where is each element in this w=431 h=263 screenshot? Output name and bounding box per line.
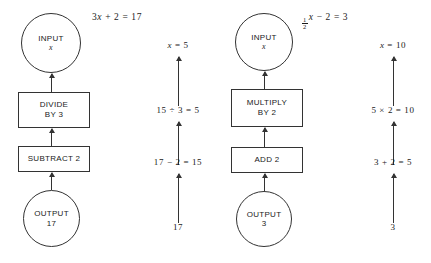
node-step-right-1[interactable]: MULTIPLY BY 2	[231, 89, 303, 127]
working-right-start: 3	[390, 222, 395, 232]
panel-right: 12x − 2 = 3 INPUT x MULTIPLY BY 2 ADD 2	[215, 0, 431, 263]
arrow-up-left-2	[51, 129, 52, 146]
arrow-up-left-1	[51, 74, 52, 92]
working-arrow-left-3	[178, 174, 179, 223]
node-step-left-1[interactable]: DIVIDE BY 3	[18, 92, 90, 128]
node-step-right-1-line1: MULTIPLY	[247, 98, 287, 108]
node-input-right-value: x	[262, 42, 266, 51]
node-step-right-2-line1: ADD 2	[254, 155, 279, 165]
arrow-up-right-2	[264, 128, 265, 147]
arrow-up-left-3	[51, 173, 52, 190]
working-right-result-rest: = 10	[385, 40, 407, 50]
node-output-right-value: 3	[262, 219, 267, 228]
working-arrow-left-1	[178, 57, 179, 106]
panel-left: 3x + 2 = 17 INPUT x DIVIDE BY 3 SUBTRACT…	[0, 0, 216, 263]
node-output-left-value: 17	[47, 219, 57, 228]
flowchart-right: INPUT x MULTIPLY BY 2 ADD 2 OUTPUT 3	[215, 0, 325, 263]
working-arrow-right-3	[393, 174, 394, 223]
node-step-left-1-line1: DIVIDE	[40, 100, 68, 110]
node-output-right[interactable]: OUTPUT 3	[236, 191, 292, 247]
node-step-left-2[interactable]: SUBTRACT 2	[18, 146, 90, 172]
arrow-up-right-1	[264, 72, 265, 89]
working-left-start: 17	[173, 222, 183, 232]
node-step-right-1-line2: BY 2	[258, 108, 276, 118]
working-right-result: x = 10	[380, 40, 406, 50]
working-right-step-1: 3 + 2 = 5	[374, 157, 412, 167]
node-step-left-2-line1: SUBTRACT 2	[28, 154, 81, 164]
node-input-right[interactable]: INPUT x	[235, 13, 293, 71]
diagram-canvas: 3x + 2 = 17 INPUT x DIVIDE BY 3 SUBTRACT…	[0, 0, 431, 263]
node-input-left-label: INPUT	[38, 34, 64, 43]
node-input-left-value: x	[49, 43, 53, 52]
working-left-result: x = 5	[167, 40, 188, 50]
flowchart-left: INPUT x DIVIDE BY 3 SUBTRACT 2 OUTPUT 17	[0, 0, 110, 263]
node-output-left[interactable]: OUTPUT 17	[23, 190, 80, 247]
working-left-result-rest: = 5	[172, 40, 188, 50]
working-right-step-2: 5 × 2 = 10	[371, 105, 414, 115]
node-step-right-2[interactable]: ADD 2	[231, 147, 303, 173]
node-input-right-label: INPUT	[251, 33, 277, 42]
node-output-left-label: OUTPUT	[34, 209, 69, 218]
node-output-right-label: OUTPUT	[247, 210, 282, 219]
node-step-left-1-line2: BY 3	[45, 110, 63, 120]
working-left-step-1: 17 − 2 = 15	[154, 157, 202, 167]
working-arrow-right-1	[393, 57, 394, 106]
working-left-step-2: 15 ÷ 3 = 5	[156, 105, 199, 115]
arrow-up-right-3	[264, 174, 265, 191]
node-input-left[interactable]: INPUT x	[21, 13, 81, 73]
